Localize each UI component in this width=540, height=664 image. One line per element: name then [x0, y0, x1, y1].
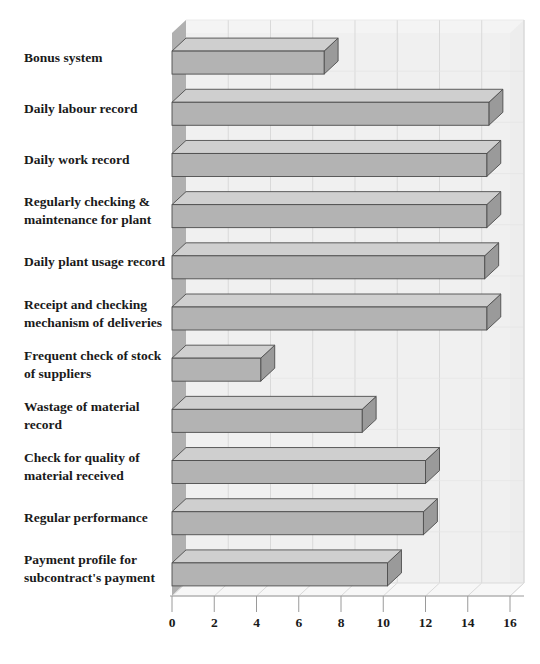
bar-front-face [172, 358, 261, 381]
bar-top-face [172, 192, 501, 205]
bar-front-face [172, 307, 487, 330]
bar-group [172, 243, 499, 279]
category-label-line: Regularly checking & [24, 194, 150, 209]
x-axis-tick-label: 0 [169, 615, 176, 630]
bar-group [172, 448, 440, 484]
bar-top-face [172, 345, 275, 358]
category-label-line: material received [24, 468, 124, 483]
bar-group [172, 345, 275, 381]
bar-top-face [172, 499, 437, 512]
x-axis-tick-label: 10 [377, 615, 391, 630]
bar-group [172, 550, 401, 586]
category-label: Bonus system [24, 50, 103, 65]
bar-front-face [172, 461, 426, 484]
bar-top-face [172, 294, 501, 307]
category-label-line: mechanism of deliveries [24, 315, 162, 330]
category-label-line: of suppliers [24, 366, 91, 381]
bar-group [172, 192, 501, 228]
x-axis-tick-label: 8 [338, 615, 345, 630]
category-label-line: Daily plant usage record [24, 254, 166, 269]
bar-top-face [172, 550, 401, 563]
category-label-line: record [24, 417, 62, 432]
category-label-line: Daily labour record [24, 101, 138, 116]
category-label-line: subcontract's payment [24, 570, 155, 585]
plot-top-band [172, 20, 524, 33]
bar-chart-container: 0246810121416 Bonus systemDaily labour r… [0, 0, 540, 664]
category-label-line: Payment profile for [24, 552, 137, 567]
bar-front-face [172, 205, 487, 228]
bar-group [172, 294, 501, 330]
x-axis-tick-label: 4 [253, 615, 260, 630]
category-label-line: Daily work record [24, 152, 130, 167]
bar-front-face [172, 51, 324, 74]
bar-front-face [172, 256, 485, 279]
category-label-line: Bonus system [24, 50, 103, 65]
bar-top-face [172, 140, 501, 153]
bar-top-face [172, 448, 440, 461]
bar-top-face [172, 89, 503, 102]
bar-front-face [172, 512, 423, 535]
category-label: Regular performance [24, 510, 148, 525]
bar-group [172, 396, 376, 432]
bar-group [172, 499, 437, 535]
bar-group [172, 38, 338, 74]
x-axis-tick-label: 2 [211, 615, 218, 630]
bar-front-face [172, 102, 489, 125]
category-label: Daily work record [24, 152, 130, 167]
bar-group [172, 89, 503, 125]
x-axis-tick-label: 12 [419, 615, 433, 630]
category-label-line: maintenance for plant [24, 212, 152, 227]
x-axis-tick-label: 14 [461, 615, 475, 630]
category-label: Daily labour record [24, 101, 138, 116]
category-label-line: Receipt and checking [24, 297, 147, 312]
bar-top-face [172, 243, 499, 256]
category-label-line: Regular performance [24, 510, 148, 525]
category-label: Daily plant usage record [24, 254, 166, 269]
bar-front-face [172, 563, 387, 586]
bar-group [172, 140, 501, 176]
category-label-line: Check for quality of [24, 450, 140, 465]
category-label-line: Wastage of material [24, 399, 140, 414]
bar-top-face [172, 396, 376, 409]
bar-chart-svg: 0246810121416 Bonus systemDaily labour r… [0, 0, 540, 664]
bar-top-face [172, 38, 338, 51]
category-label-line: Frequent check of stock [24, 348, 162, 363]
bar-front-face [172, 153, 487, 176]
bar-front-face [172, 409, 362, 432]
x-axis-tick-label: 16 [503, 615, 517, 630]
x-axis-tick-label: 6 [295, 615, 302, 630]
